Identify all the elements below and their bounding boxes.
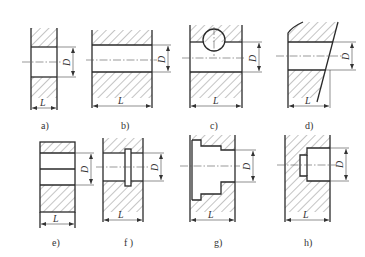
panel-caption: e) — [52, 237, 60, 249]
dimension-l-label: L — [212, 95, 219, 106]
panel-g: D L g) — [180, 135, 256, 249]
dimension-d-label: D — [61, 58, 72, 67]
dimension-d-label: D — [156, 55, 167, 64]
dimension-l-label: L — [304, 95, 311, 106]
panel-a: D L a) — [22, 28, 76, 132]
dimension-l-label: L — [302, 209, 309, 220]
panel-b: D L b) — [86, 30, 171, 132]
panel-d: D L d) — [276, 22, 356, 132]
panel-caption: c) — [210, 120, 218, 132]
panel-caption: h) — [304, 237, 312, 249]
panel-h: D L h) — [277, 135, 349, 249]
panel-caption: d) — [305, 120, 313, 132]
panel-c: D L c) — [182, 25, 262, 132]
panel-f: D L f ) — [96, 138, 164, 249]
panel-e: D L e) — [40, 142, 94, 249]
dimension-d-label: D — [149, 163, 160, 172]
panel-caption: a) — [41, 120, 49, 132]
panel-caption: g) — [214, 237, 222, 249]
dimension-d-label: D — [247, 54, 258, 63]
dimension-l-label: L — [117, 209, 124, 220]
dimension-d-label: D — [79, 165, 90, 174]
dimension-l-label: L — [39, 97, 46, 108]
dimension-l-label: L — [117, 95, 124, 106]
dimension-l-label: L — [52, 213, 59, 224]
panel-caption: b) — [121, 120, 129, 132]
hole-types-diagram: D L a) D L b) D L — [0, 0, 365, 257]
dimension-d-label: D — [340, 52, 351, 61]
dimension-l-label: L — [207, 209, 214, 220]
dimension-d-label: D — [334, 160, 345, 169]
dimension-d-label: D — [241, 162, 252, 171]
panel-caption: f ) — [124, 237, 133, 249]
